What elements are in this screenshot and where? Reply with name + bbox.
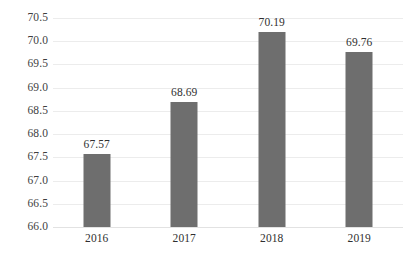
y-axis-tick-label: 70.5 [6,12,48,24]
y-axis-tick-label: 68.5 [6,105,48,117]
bar[interactable] [83,154,110,227]
y-axis-tick-label: 68.0 [6,128,48,140]
bar-value-label: 67.57 [84,139,110,151]
x-axis: 2016201720182019 [53,232,403,252]
x-axis-tick-label: 2018 [228,232,316,246]
y-axis: 70.570.069.569.068.568.067.567.066.566.0 [0,18,48,227]
bar-group: 70.19 [228,18,316,227]
bar-group: 68.69 [141,18,229,227]
y-axis-tick-label: 70.0 [6,35,48,47]
bar-value-label: 69.76 [346,37,372,49]
bar-chart: 70.570.069.569.068.568.067.567.066.566.0… [0,0,419,257]
plot-area: 67.5768.6970.1969.76 [53,18,403,227]
x-axis-tick-label: 2016 [53,232,141,246]
bar-group: 69.76 [316,18,404,227]
x-axis-tick-label: 2019 [316,232,404,246]
y-axis-tick-label: 67.0 [6,175,48,187]
bar[interactable] [346,52,373,227]
bar[interactable] [258,32,285,227]
axis-baseline [53,227,403,228]
y-axis-tick-label: 69.5 [6,58,48,70]
bar-value-label: 68.69 [171,87,197,99]
y-axis-tick-label: 67.5 [6,151,48,163]
x-axis-tick-label: 2017 [141,232,229,246]
bar-value-label: 70.19 [259,17,285,29]
y-axis-tick-label: 66.0 [6,221,48,233]
bar[interactable] [171,102,198,227]
y-axis-tick-label: 69.0 [6,82,48,94]
bar-group: 67.57 [53,18,141,227]
y-axis-tick-label: 66.5 [6,198,48,210]
